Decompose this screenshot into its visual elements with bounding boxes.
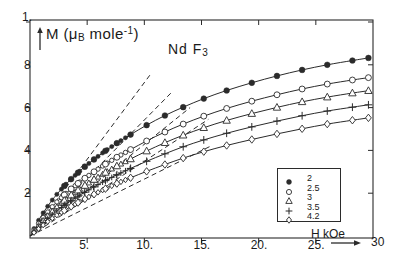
x-tick-label: 15. — [194, 239, 211, 251]
chart-title: Nd F3 — [168, 42, 209, 58]
x-tick-label: 30 — [371, 236, 384, 248]
legend-item[interactable]: 2 — [283, 173, 337, 183]
y-tick-label: 2 — [24, 187, 31, 199]
y-tick-label: 6 — [24, 102, 31, 114]
legend-item[interactable]: 4.2 — [283, 211, 337, 221]
legend-item[interactable]: 3.5 — [283, 202, 337, 212]
figure: M (μB mole-1) Nd F3 H kOe 1.8642 5.10.15… — [0, 0, 395, 275]
legend-marker-diamond-icon — [283, 211, 295, 229]
x-tick-label: 5. — [79, 239, 89, 251]
legend-item[interactable]: 2.5 — [283, 183, 337, 193]
legend: 22.533.54.2 — [277, 168, 341, 222]
x-tick-label: 20. — [251, 239, 268, 251]
y-tick-label: 8 — [24, 59, 31, 71]
y-axis-label: M (μB mole-1) — [46, 26, 139, 43]
legend-label: 3.5 — [307, 202, 320, 212]
y-tick-label: 1. — [22, 11, 32, 23]
legend-label: 4.2 — [307, 211, 320, 221]
legend-label: 3 — [307, 192, 312, 202]
legend-label: 2.5 — [307, 183, 320, 193]
y-tick-label: 4 — [24, 144, 31, 156]
legend-label: 2 — [307, 173, 312, 183]
x-tick-label: 10. — [136, 239, 153, 251]
x-tick-label: 25. — [308, 239, 325, 251]
legend-item[interactable]: 3 — [283, 192, 337, 202]
